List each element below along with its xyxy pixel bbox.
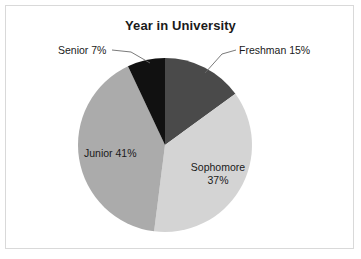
slice-label-sophomore-name: Sophomore — [182, 161, 254, 174]
slice-label-sophomore: Sophomore 37% — [182, 161, 254, 187]
pie-chart-figure: Year in University Senior 7% Freshman 15… — [0, 0, 361, 259]
slice-label-sophomore-percent: 37% — [182, 174, 254, 187]
slice-label-freshman: Freshman 15% — [239, 44, 310, 56]
pie-graphic — [0, 0, 361, 259]
slice-label-senior: Senior 7% — [58, 44, 106, 56]
leader-line-freshman — [205, 50, 236, 73]
pie-slice-group — [78, 58, 252, 232]
slice-label-junior: Junior 41% — [84, 147, 137, 159]
